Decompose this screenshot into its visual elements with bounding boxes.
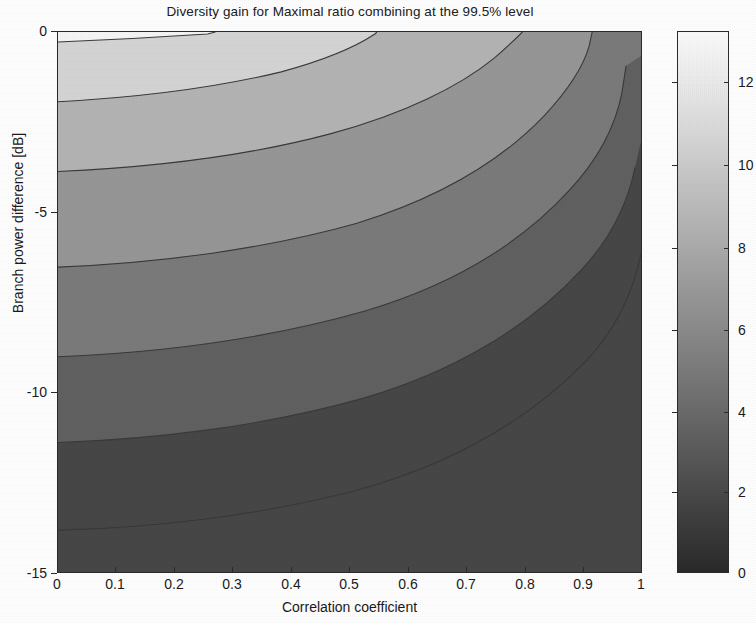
colorbar-tick-8 (672, 248, 677, 249)
colorbar-label-4: 4 (738, 404, 746, 420)
colorbar-tick-10 (672, 165, 677, 166)
xtick-mark-2 (174, 567, 175, 573)
colorbar-tick-4-inner (724, 412, 729, 413)
colorbar-tick-12 (672, 82, 677, 83)
contour-plot-area (57, 31, 642, 573)
xtick-label-9: 0.9 (573, 576, 592, 592)
ytick-mark-10 (51, 392, 57, 393)
colorbar-tick-4 (672, 412, 677, 413)
xtick-mark-8 (525, 567, 526, 573)
ytick-mark-15 (51, 573, 57, 574)
xtick-label-4: 0.4 (281, 576, 300, 592)
ytick-mark-0 (51, 31, 57, 32)
colorbar-tick-8-inner (724, 248, 729, 249)
colorbar-gradient (677, 31, 729, 573)
contour-svg (58, 32, 641, 572)
xtick-label-0: 0 (53, 576, 61, 592)
xtick-mark-4 (291, 567, 292, 573)
xtick-mark-0 (57, 567, 58, 573)
xtick-label-10: 1 (637, 576, 645, 592)
colorbar-tick-6-inner (724, 330, 729, 331)
xtick-label-5: 0.5 (339, 576, 358, 592)
y-axis-label: Branch power difference [dB] (10, 113, 26, 333)
colorbar-tick-2 (672, 492, 677, 493)
ytick-label-10: -10 (20, 384, 47, 400)
xtick-mark-7 (466, 567, 467, 573)
colorbar-tick-10-inner (724, 165, 729, 166)
ytick-mark-5 (51, 212, 57, 213)
xtick-mark-9 (583, 567, 584, 573)
colorbar-label-2: 2 (738, 484, 746, 500)
xtick-mark-1 (115, 567, 116, 573)
xtick-mark-5 (349, 567, 350, 573)
colorbar-tick-2-inner (724, 492, 729, 493)
page-title: Diversity gain for Maximal ratio combini… (0, 4, 700, 19)
xtick-label-7: 0.7 (456, 576, 475, 592)
colorbar-tick-6 (672, 330, 677, 331)
xtick-label-1: 0.1 (105, 576, 124, 592)
colorbar-tick-12-inner (724, 82, 729, 83)
xtick-label-2: 0.2 (164, 576, 183, 592)
ytick-label-15: -15 (20, 565, 47, 581)
colorbar-label-12: 12 (738, 74, 754, 90)
colorbar-label-8: 8 (738, 240, 746, 256)
xtick-mark-6 (408, 567, 409, 573)
x-axis-label: Correlation coefficient (57, 599, 642, 615)
xtick-label-6: 0.6 (398, 576, 417, 592)
colorbar-label-10: 10 (738, 157, 754, 173)
ytick-label-0: 0 (20, 23, 47, 39)
colorbar-label-6: 6 (738, 322, 746, 338)
colorbar (677, 31, 729, 573)
xtick-mark-10 (641, 567, 642, 573)
contour-bands (58, 32, 641, 572)
xtick-label-3: 0.3 (222, 576, 241, 592)
colorbar-label-0: 0 (738, 565, 746, 581)
xtick-label-8: 0.8 (515, 576, 534, 592)
figure-canvas: Diversity gain for Maximal ratio combini… (0, 0, 756, 623)
xtick-mark-3 (232, 567, 233, 573)
